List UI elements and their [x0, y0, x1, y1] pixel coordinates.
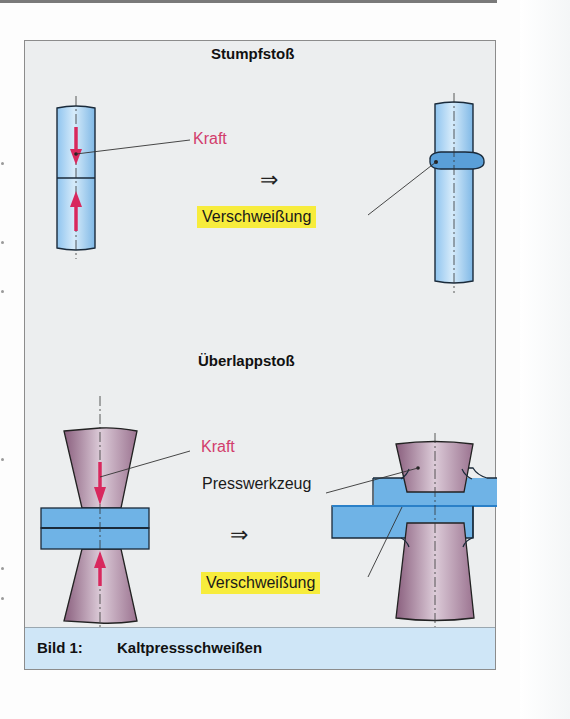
- butt-joint-force-label: Kraft: [193, 130, 227, 148]
- butt-joint-transition-arrow-icon: ⇒: [260, 169, 278, 191]
- lap-joint-title: Überlappstoß: [198, 352, 295, 369]
- page-side-margin: [520, 0, 570, 719]
- butt-joint-weld-label: Verschweißung: [197, 206, 316, 228]
- page-top-rule: [0, 0, 497, 3]
- lap-joint-transition-arrow-icon: ⇒: [230, 524, 248, 546]
- margin-mark: [1, 597, 4, 600]
- margin-mark: [1, 241, 4, 244]
- lap-joint-force-label: Kraft: [201, 438, 235, 456]
- butt-joint-title: Stumpfstoß: [211, 45, 294, 62]
- lap-joint-tool-label: Presswerkzeug: [202, 475, 311, 493]
- lap-joint-weld-label: Verschweißung: [201, 572, 320, 594]
- figure-kaltpressschweissen: Stumpfstoß Kraft ⇒ Verschweißung Überlap…: [24, 40, 496, 670]
- butt-joint-after-rod: [368, 93, 484, 293]
- margin-mark: [1, 290, 4, 293]
- margin-mark: [1, 458, 4, 461]
- figure-caption: Bild 1: Kaltpressschweißen: [25, 627, 495, 669]
- lap-joint-after: [326, 433, 497, 627]
- butt-joint-before-rods: [57, 96, 190, 259]
- lap-joint-before: [41, 396, 190, 629]
- caption-label: Bild 1:: [37, 639, 83, 656]
- margin-mark: [1, 567, 4, 570]
- margin-mark: [1, 162, 4, 165]
- caption-text: Kaltpressschweißen: [117, 639, 262, 656]
